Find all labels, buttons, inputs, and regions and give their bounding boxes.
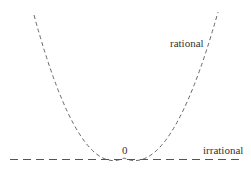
diagram-canvas: rational irrational 0 (0, 0, 251, 171)
vertex-zero-label: 0 (122, 144, 128, 156)
rational-label: rational (170, 37, 204, 49)
rational-parabola-curve (34, 12, 218, 161)
irrational-label: irrational (203, 144, 243, 156)
diagram-svg: rational irrational 0 (0, 0, 251, 171)
